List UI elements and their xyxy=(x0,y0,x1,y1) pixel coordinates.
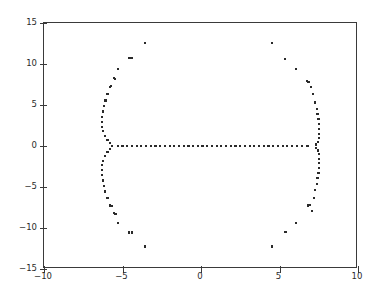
x-tick-label: −10 xyxy=(23,272,63,281)
data-point xyxy=(101,164,103,166)
data-point xyxy=(310,86,312,88)
data-point xyxy=(106,139,108,141)
data-point xyxy=(101,121,103,123)
data-point xyxy=(117,68,119,70)
data-point xyxy=(150,145,152,147)
data-point xyxy=(295,68,297,70)
data-point xyxy=(183,145,185,147)
data-point xyxy=(131,231,133,233)
data-point xyxy=(101,116,103,118)
y-tick-inner xyxy=(44,23,47,24)
data-point xyxy=(111,145,113,147)
data-point xyxy=(144,42,146,44)
data-point xyxy=(131,145,133,147)
data-point xyxy=(318,153,320,155)
data-point xyxy=(164,145,166,147)
data-point xyxy=(277,145,279,147)
data-point xyxy=(317,118,319,120)
x-tick-inner xyxy=(280,266,281,269)
data-point xyxy=(271,245,273,247)
data-point xyxy=(216,145,218,147)
x-tick-inner xyxy=(123,266,124,269)
data-point xyxy=(104,155,106,157)
plot-area xyxy=(43,22,357,268)
data-point xyxy=(311,210,313,212)
data-point xyxy=(318,158,320,160)
data-point xyxy=(109,204,111,206)
data-point xyxy=(101,174,103,176)
data-point xyxy=(316,113,318,115)
y-tick-inner xyxy=(44,228,47,229)
data-point xyxy=(109,86,111,88)
data-point xyxy=(286,145,288,147)
data-point xyxy=(102,179,104,181)
data-point xyxy=(318,123,320,125)
data-point xyxy=(136,145,138,147)
data-point xyxy=(192,145,194,147)
y-tick-inner xyxy=(44,187,47,188)
data-point xyxy=(197,145,199,147)
data-point xyxy=(117,145,119,147)
data-point xyxy=(101,126,103,128)
data-point xyxy=(169,145,171,147)
y-tick-inner xyxy=(44,64,47,65)
data-point xyxy=(201,145,203,147)
data-point xyxy=(102,130,104,132)
y-tick-label: 5 xyxy=(0,100,37,109)
data-point xyxy=(140,145,142,147)
data-point xyxy=(316,177,318,179)
data-point xyxy=(178,145,180,147)
y-tick-label: 0 xyxy=(0,141,37,150)
data-point xyxy=(103,105,105,107)
data-point xyxy=(271,42,273,44)
data-point xyxy=(211,145,213,147)
data-point xyxy=(104,99,106,101)
data-point xyxy=(314,101,316,103)
data-point xyxy=(318,162,320,164)
data-point xyxy=(109,142,111,144)
data-point xyxy=(106,151,108,153)
y-tick-inner xyxy=(44,146,47,147)
data-point xyxy=(104,190,106,192)
data-point xyxy=(315,147,317,149)
x-tick-inner xyxy=(201,266,202,269)
data-point xyxy=(295,222,297,224)
y-tick-label: −10 xyxy=(0,223,37,232)
y-tick-label: 10 xyxy=(0,59,37,68)
data-point xyxy=(318,137,320,139)
data-point xyxy=(263,145,265,147)
data-point xyxy=(284,231,286,233)
data-point xyxy=(234,145,236,147)
data-point xyxy=(249,145,251,147)
data-point xyxy=(104,135,106,137)
data-point xyxy=(316,183,318,185)
data-point xyxy=(114,213,116,215)
data-point xyxy=(291,145,293,147)
data-point xyxy=(102,160,104,162)
data-point xyxy=(220,145,222,147)
figure-root: 151050−5−10−15 −10−50510 xyxy=(0,0,374,297)
data-point xyxy=(301,145,303,147)
data-point xyxy=(306,145,308,147)
data-point xyxy=(109,148,111,150)
data-point xyxy=(206,145,208,147)
data-point xyxy=(317,149,319,151)
data-point xyxy=(244,145,246,147)
data-point xyxy=(114,78,116,80)
data-point xyxy=(144,245,146,247)
data-point xyxy=(103,185,105,187)
data-point xyxy=(317,172,319,174)
data-point xyxy=(253,145,255,147)
data-point xyxy=(296,145,298,147)
data-point xyxy=(315,143,317,145)
data-point xyxy=(121,145,123,147)
data-point xyxy=(318,128,320,130)
data-point xyxy=(101,169,103,171)
y-tick-label: −5 xyxy=(0,182,37,191)
data-point xyxy=(314,189,316,191)
scatter-canvas xyxy=(44,23,356,267)
data-point xyxy=(272,145,274,147)
data-point xyxy=(284,58,286,60)
data-point xyxy=(159,145,161,147)
y-tick-inner xyxy=(44,105,47,106)
